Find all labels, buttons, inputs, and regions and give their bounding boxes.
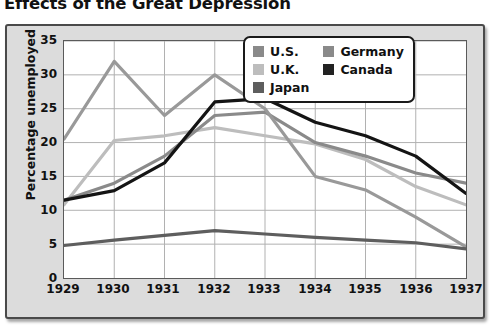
legend-swatch-uk-icon bbox=[253, 64, 264, 75]
x-tick-1934: 1934 bbox=[292, 282, 338, 296]
chart-title: Effects of the Great Depression bbox=[4, 0, 291, 13]
x-tick-1932: 1932 bbox=[191, 282, 237, 296]
legend-item-us: U.S. bbox=[253, 43, 309, 60]
legend-swatch-us-icon bbox=[253, 46, 264, 57]
y-tick-5: 5 bbox=[23, 237, 57, 251]
legend-label-japan: Japan bbox=[270, 80, 309, 95]
y-tick-30: 30 bbox=[23, 67, 57, 81]
chart-root: Effects of the Great Depression Percenta… bbox=[0, 0, 497, 334]
y-tick-20: 20 bbox=[23, 135, 57, 149]
x-tick-1930: 1930 bbox=[90, 282, 136, 296]
x-tick-1937: 1937 bbox=[443, 282, 489, 296]
y-tick-10: 10 bbox=[23, 203, 57, 217]
x-tick-1935: 1935 bbox=[342, 282, 388, 296]
y-tick-35: 35 bbox=[23, 33, 57, 47]
chart-legend: U.S. Germany U.K. Canada Japan bbox=[243, 36, 415, 103]
x-tick-1933: 1933 bbox=[241, 282, 287, 296]
chart-panel: Percentage unemployed 35 30 25 20 15 10 … bbox=[5, 24, 485, 319]
legend-item-canada: Canada bbox=[323, 61, 403, 78]
y-tick-15: 15 bbox=[23, 169, 57, 183]
legend-item-germany: Germany bbox=[323, 43, 403, 60]
legend-item-uk: U.K. bbox=[253, 61, 309, 78]
x-tick-1931: 1931 bbox=[140, 282, 186, 296]
x-tick-1936: 1936 bbox=[393, 282, 439, 296]
y-tick-25: 25 bbox=[23, 101, 57, 115]
legend-swatch-japan-icon bbox=[253, 82, 264, 93]
legend-label-germany: Germany bbox=[340, 44, 403, 59]
legend-swatch-canada-icon bbox=[323, 64, 334, 75]
legend-label-uk: U.K. bbox=[270, 62, 299, 77]
legend-label-canada: Canada bbox=[340, 62, 392, 77]
legend-swatch-germany-icon bbox=[323, 46, 334, 57]
legend-label-us: U.S. bbox=[270, 44, 299, 59]
legend-item-japan: Japan bbox=[253, 79, 309, 96]
x-tick-1929: 1929 bbox=[40, 282, 86, 296]
